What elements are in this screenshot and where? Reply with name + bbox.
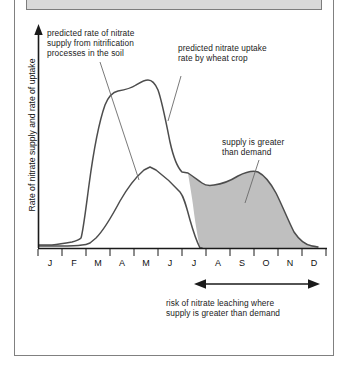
x-tick-label-feb: F bbox=[65, 258, 83, 268]
y-axis-arrowhead bbox=[34, 24, 42, 35]
range-arrow-risk-of-leaching bbox=[194, 279, 320, 289]
figure-caption: risk of nitrate leaching where supply is… bbox=[166, 298, 326, 318]
x-tick-label-jun: J bbox=[161, 258, 179, 268]
annotation-supply-curve: predicted rate of nitrate supply from ni… bbox=[47, 28, 175, 59]
x-axis-ticks bbox=[38, 249, 326, 256]
leader-line-uptake-annotation bbox=[168, 76, 181, 121]
x-tick-label-sep: S bbox=[233, 258, 251, 268]
x-tick-label-nov: N bbox=[281, 258, 299, 268]
x-tick-label-may: M bbox=[137, 258, 155, 268]
x-tick-label-dec: D bbox=[305, 258, 323, 268]
x-tick-label-oct: O bbox=[257, 258, 275, 268]
x-tick-label-jul: J bbox=[185, 258, 203, 268]
annotation-uptake-curve: predicted nitrate uptake rate by wheat c… bbox=[178, 43, 298, 63]
x-tick-label-apr: A bbox=[113, 258, 131, 268]
annotation-shaded-region: supply is greater than demand bbox=[222, 137, 318, 157]
x-tick-label-aug: A bbox=[209, 258, 227, 268]
shaded-area-supply-greater-than-demand bbox=[188, 171, 318, 248]
x-tick-label-mar: M bbox=[89, 258, 107, 268]
curve-nitrate-uptake bbox=[39, 167, 202, 248]
figure-container: Rate of nitrate supply and rate of uptak… bbox=[0, 0, 345, 365]
leader-line-supply-annotation bbox=[100, 62, 139, 180]
y-axis-label: Rate of nitrate supply and rate of uptak… bbox=[27, 35, 37, 235]
x-tick-label-jan: J bbox=[41, 258, 59, 268]
